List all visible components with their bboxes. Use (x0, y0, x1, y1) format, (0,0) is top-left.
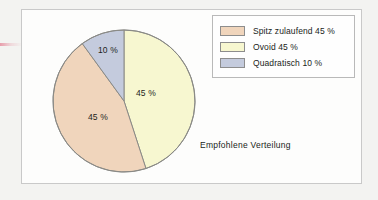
scan-artifact-mark (0, 43, 22, 46)
legend-label-ovoid: Ovoid 45 % (253, 42, 298, 52)
figure-frame: 45 % 45 % 10 % Spitz zulaufend 45 % Ovoi… (21, 9, 362, 184)
legend-swatch-ovoid (220, 42, 245, 52)
legend-item-spitz-zulaufend: Spitz zulaufend 45 % (220, 23, 346, 38)
legend-item-quadratisch: Quadratisch 10 % (220, 55, 346, 70)
pie-slice-label-quadratisch: 10 % (98, 45, 118, 55)
legend-label-quadratisch: Quadratisch 10 % (253, 58, 322, 68)
legend-item-ovoid: Ovoid 45 % (220, 39, 346, 54)
legend-swatch-quadratisch (220, 58, 245, 68)
pie-chart: 45 % 45 % 10 % (51, 28, 197, 174)
chart-caption: Empfohlene Verteilung (200, 140, 291, 150)
pie-slice-label-spitz-zulaufend: 45 % (88, 112, 108, 122)
pie-slice-label-ovoid: 45 % (136, 88, 156, 98)
legend-swatch-spitz-zulaufend (220, 26, 245, 36)
chart-legend: Spitz zulaufend 45 % Ovoid 45 % Quadrati… (212, 15, 355, 78)
figure-inner-panel: 45 % 45 % 10 % Spitz zulaufend 45 % Ovoi… (22, 10, 361, 183)
legend-label-spitz-zulaufend: Spitz zulaufend 45 % (253, 26, 335, 36)
